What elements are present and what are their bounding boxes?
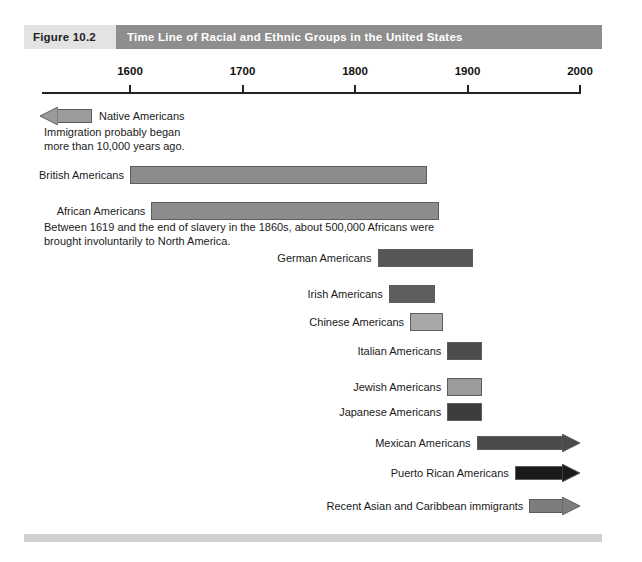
timeline-bar-british-americans[interactable] (130, 166, 427, 184)
timeline-bar-italian-americans[interactable] (447, 342, 482, 360)
row-label-british-americans: British Americans (0, 166, 124, 184)
timeline-row: Native Americans (0, 107, 642, 125)
timeline-row: African Americans (0, 202, 642, 220)
timeline-arrow-recent-asian-and-caribbean-immigrants[interactable] (529, 497, 580, 515)
timeline-row: Chinese Americans (0, 313, 642, 331)
row-label-italian-americans: Italian Americans (0, 342, 441, 360)
arrow-shaft (529, 499, 563, 513)
row-label-german-americans: German Americans (0, 249, 372, 267)
row-label-japanese-americans: Japanese Americans (0, 403, 441, 421)
timeline-row: Japanese Americans (0, 403, 642, 421)
row-label-african-americans: African Americans (0, 202, 145, 220)
arrow-head-left-icon (40, 107, 58, 125)
timeline-arrow-native-americans[interactable] (40, 107, 92, 125)
arrow-shaft (477, 436, 564, 450)
timeline-arrow-puerto-rican-americans[interactable] (515, 464, 580, 482)
timeline-row: Jewish Americans (0, 378, 642, 396)
arrow-head-right-icon (562, 497, 580, 515)
arrow-shaft (57, 109, 92, 123)
row-label-native-americans: Native Americans (99, 107, 185, 125)
timeline-arrow-mexican-americans[interactable] (477, 434, 581, 452)
timeline-bar-chinese-americans[interactable] (410, 313, 443, 331)
timeline-row: Puerto Rican Americans (0, 464, 642, 482)
timeline-rows: Native AmericansBritish AmericansAfrican… (0, 0, 642, 562)
timeline-bar-jewish-americans[interactable] (447, 378, 482, 396)
native-americans-note: Immigration probably began more than 10,… (44, 126, 324, 153)
row-label-puerto-rican-americans: Puerto Rican Americans (0, 464, 509, 482)
row-label-jewish-americans: Jewish Americans (0, 378, 441, 396)
row-label-chinese-americans: Chinese Americans (0, 313, 404, 331)
row-label-irish-americans: Irish Americans (0, 285, 383, 303)
timeline-row: Irish Americans (0, 285, 642, 303)
timeline-bar-irish-americans[interactable] (389, 285, 435, 303)
timeline-row: British Americans (0, 166, 642, 184)
row-label-mexican-americans: Mexican Americans (0, 434, 471, 452)
footer-rule (24, 534, 602, 542)
timeline-row: Italian Americans (0, 342, 642, 360)
arrow-shaft (515, 466, 563, 480)
timeline-bar-japanese-americans[interactable] (447, 403, 482, 421)
arrow-head-right-icon (562, 434, 580, 452)
timeline-bar-african-americans[interactable] (151, 202, 439, 220)
african-americans-note: Between 1619 and the end of slavery in t… (44, 221, 464, 248)
timeline-row: Mexican Americans (0, 434, 642, 452)
arrow-head-right-icon (562, 464, 580, 482)
timeline-row: German Americans (0, 249, 642, 267)
timeline-row: Recent Asian and Caribbean immigrants (0, 497, 642, 515)
row-label-recent-asian-and-caribbean-immigrants: Recent Asian and Caribbean immigrants (0, 497, 523, 515)
timeline-bar-german-americans[interactable] (378, 249, 474, 267)
